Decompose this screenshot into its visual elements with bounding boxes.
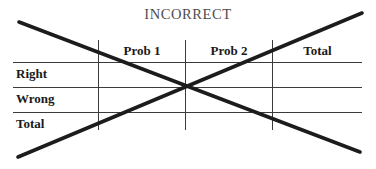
row-header-right: Right [16,66,96,82]
table-rule-row-1 [13,87,362,88]
table-rule-row-2 [13,112,362,113]
column-header-total: Total [273,41,362,61]
table-rule-header-bottom [13,62,362,63]
incorrect-table-figure: INCORRECT Prob 1 Prob 2 Total Right Wron… [0,0,376,169]
row-header-total: Total [16,116,96,132]
column-header-prob-2: Prob 2 [186,41,272,61]
column-header-prob-1: Prob 1 [99,41,185,61]
figure-title: INCORRECT [0,6,376,23]
cross-out-stroke-ascending [18,13,362,157]
cross-out-x-icon [0,0,376,169]
row-header-wrong: Wrong [16,91,96,107]
